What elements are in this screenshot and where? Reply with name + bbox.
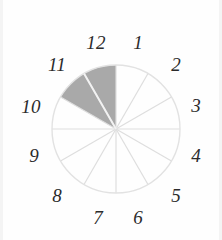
clock-figure: 123456789101112 bbox=[0, 0, 222, 240]
sector-spoke bbox=[84, 129, 116, 184]
hour-label-1: 1 bbox=[133, 33, 143, 52]
hour-label-11: 11 bbox=[48, 55, 66, 74]
hour-label-10: 10 bbox=[21, 97, 40, 116]
sector-spoke bbox=[116, 97, 171, 129]
sector-spoke bbox=[61, 129, 116, 161]
sector-spoke bbox=[116, 74, 148, 129]
hour-label-9: 9 bbox=[29, 146, 39, 165]
hour-label-12: 12 bbox=[86, 33, 105, 52]
shaded-sector-group bbox=[61, 65, 116, 129]
hour-label-6: 6 bbox=[133, 208, 143, 227]
hour-label-8: 8 bbox=[52, 186, 62, 205]
clock-dial-graphic bbox=[0, 0, 222, 240]
hour-label-7: 7 bbox=[93, 208, 103, 227]
hour-label-3: 3 bbox=[191, 96, 201, 115]
hour-label-2: 2 bbox=[171, 55, 181, 74]
sector-spoke bbox=[116, 129, 148, 184]
hour-label-5: 5 bbox=[171, 186, 181, 205]
hour-label-4: 4 bbox=[191, 146, 201, 165]
sector-spoke bbox=[116, 129, 171, 161]
